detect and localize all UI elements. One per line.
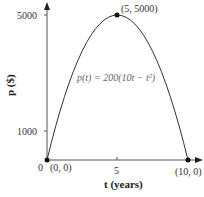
y-tick-label-5000: 5000 [17, 10, 37, 21]
point-origin [45, 158, 50, 163]
point-end [186, 158, 191, 163]
x-tick-label-5: 5 [114, 165, 119, 176]
x-axis-arrow-icon [195, 157, 203, 163]
annotation-vertex: (5, 5000) [121, 3, 158, 15]
x-axis-title: t (years) [104, 178, 143, 191]
point-vertex [115, 13, 120, 18]
y-tick-label-1000: 1000 [17, 126, 37, 137]
origin-label: 0 [38, 162, 43, 173]
annotation-end: (10, 0) [175, 166, 202, 178]
annotation-origin: (0, 0) [50, 162, 72, 174]
parabola-curve [47, 15, 188, 160]
equation-label: p(t) = 200(10t − t²) [76, 72, 156, 84]
y-axis-arrow-icon [44, 2, 50, 10]
parabola-chart: 5000 1000 5 0 (0, 0) (5, 5000) (10, 0) p… [0, 0, 204, 197]
y-axis-title: p ($) [4, 74, 17, 96]
